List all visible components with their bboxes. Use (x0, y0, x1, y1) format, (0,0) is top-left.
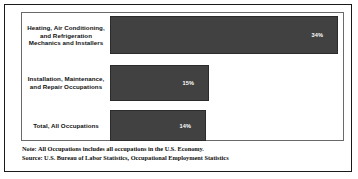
chart-figure: Heating, Air Conditioning, and Refrigera… (0, 0, 358, 179)
note-text: Note: All Occupations includes all occup… (22, 145, 342, 154)
category-label-line: and Repair Occupations (22, 83, 110, 91)
category-label: Installation, Maintenance, and Repair Oc… (22, 75, 110, 90)
bar-value-label: 14% (180, 123, 206, 129)
bar-container: 14% (110, 110, 206, 141)
category-label: Total, All Occupations (22, 122, 110, 130)
category-label: Heating, Air Conditioning, and Refrigera… (22, 24, 110, 47)
bar-container: 15% (110, 65, 209, 101)
category-label-line: Installation, Maintenance, (22, 75, 110, 83)
source-text: Source: U.S. Bureau of Labor Statistics,… (22, 154, 342, 163)
bar-total-all-occupations[interactable]: 14% (110, 110, 206, 141)
category-label-line: and Refrigeration (22, 31, 110, 39)
footnotes: Note: All Occupations includes all occup… (22, 145, 342, 162)
bar-row: Heating, Air Conditioning, and Refrigera… (22, 16, 343, 54)
bar-row: Total, All Occupations 14% (22, 110, 343, 141)
bar-row: Installation, Maintenance, and Repair Oc… (22, 65, 343, 101)
bar-container: 34% (110, 16, 338, 54)
category-label-line: Heating, Air Conditioning, (22, 24, 110, 32)
plot-area: Heating, Air Conditioning, and Refrigera… (21, 12, 344, 141)
bar-value-label: 15% (183, 80, 209, 86)
category-label-line: Total, All Occupations (22, 122, 110, 130)
bar-installation-maintenance-repair[interactable]: 15% (110, 65, 209, 101)
category-label-line: Mechanics and Installers (22, 39, 110, 47)
bar-rows: Heating, Air Conditioning, and Refrigera… (22, 13, 343, 140)
bar-heating-air-conditioning[interactable]: 34% (110, 16, 338, 54)
bar-value-label: 34% (312, 32, 338, 38)
